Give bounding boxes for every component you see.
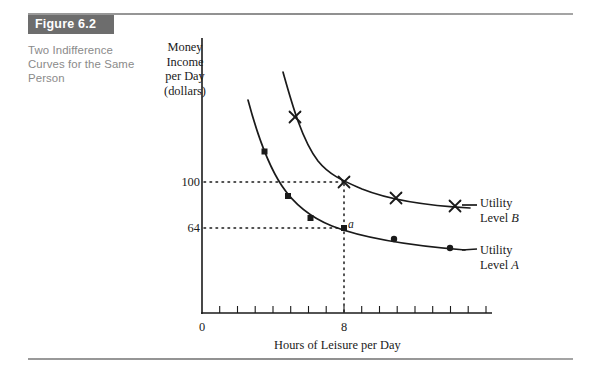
legend-b-italic: B xyxy=(511,211,519,225)
y-axis-title-line-3: per Day xyxy=(152,69,218,84)
y-axis-title-line-1: Money xyxy=(152,40,218,55)
curve-utility-level-b xyxy=(283,72,477,212)
y-axis-title-line-4: (dollars) xyxy=(152,84,218,99)
legend-a-italic: A xyxy=(511,258,519,272)
x-tick-label-8: 8 xyxy=(334,320,354,335)
y-tick-label-64: 64 xyxy=(160,221,200,236)
axis-lines xyxy=(201,38,492,314)
guide-lines xyxy=(204,182,344,312)
legend-b-line-1: Utility xyxy=(480,196,519,211)
point-label-a: a xyxy=(348,218,354,231)
legend-utility-level-b: Utility Level B xyxy=(480,196,519,225)
curve-b-markers xyxy=(290,112,461,212)
legend-b-line-2: Level B xyxy=(480,211,519,226)
y-axis-title: Money Income per Day (dollars) xyxy=(152,40,218,98)
x-axis-title: Hours of Leisure per Day xyxy=(274,338,401,353)
legend-a-line-1: Utility xyxy=(480,243,519,258)
legend-a-line-2: Level A xyxy=(480,258,519,273)
chart-plot-area xyxy=(0,0,601,377)
y-axis-title-line-2: Income xyxy=(152,55,218,70)
legend-utility-level-a: Utility Level A xyxy=(480,243,519,272)
x-tick-label-0: 0 xyxy=(192,320,212,335)
y-tick-label-100: 100 xyxy=(160,175,200,190)
legend-a-swatch xyxy=(462,249,477,250)
x-axis-ticks xyxy=(220,306,486,313)
curve-a-markers xyxy=(262,149,454,252)
